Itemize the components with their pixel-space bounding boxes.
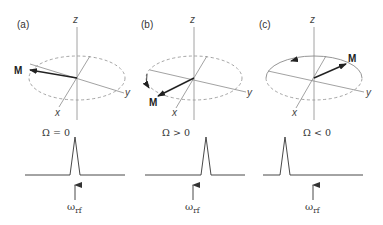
z-axis-label-a: z: [72, 14, 78, 25]
panel-a: (a) z y x M Ω = 0 ωrf: [14, 14, 131, 215]
offset-label-b: Ω > 0: [162, 127, 190, 138]
panel-label-b: (b): [141, 19, 153, 30]
rf-label-a: ωrf: [67, 201, 83, 215]
y-axis-b: [150, 70, 246, 92]
vector-label-a: M: [14, 65, 22, 76]
offset-label-a: Ω = 0: [42, 127, 70, 138]
magnetization-vector-c: [314, 64, 346, 78]
panel-c: (c) z y x M Ω < 0 ωrf: [259, 14, 372, 215]
rf-label-c: ωrf: [305, 201, 321, 215]
x-axis-a: [59, 56, 90, 107]
x-axis-label-b: x: [171, 107, 178, 118]
figure: (a) z y x M Ω = 0 ωrf (b) z y x M Ω > 0 …: [0, 0, 383, 225]
y-axis-label-c: y: [365, 87, 372, 98]
x-axis-c: [296, 56, 326, 108]
panel-b: (b) z y x M Ω > 0 ωrf: [141, 14, 253, 215]
rotation-arrow-c: [291, 59, 298, 61]
panel-label-a: (a): [17, 19, 29, 30]
spectrum-c: [263, 137, 363, 175]
spectrum-b: [145, 137, 245, 175]
offset-label-c: Ω < 0: [303, 127, 331, 138]
spectrum-a: [25, 137, 125, 175]
y-axis-c: [268, 71, 364, 92]
vector-label-b: M: [149, 97, 157, 108]
x-axis-label-c: x: [291, 107, 298, 118]
y-axis-label-a: y: [124, 87, 131, 98]
rf-label-b: ωrf: [185, 201, 201, 215]
x-axis-label-a: x: [54, 107, 61, 118]
y-axis-label-b: y: [246, 87, 253, 98]
rotation-arrow-b: [146, 74, 149, 88]
diagram-canvas: (a) z y x M Ω = 0 ωrf (b) z y x M Ω > 0 …: [0, 0, 383, 225]
z-axis-label-c: z: [309, 14, 315, 25]
z-axis-label-b: z: [189, 14, 195, 25]
panel-label-c: (c): [259, 19, 271, 30]
vector-label-c: M: [348, 53, 356, 64]
